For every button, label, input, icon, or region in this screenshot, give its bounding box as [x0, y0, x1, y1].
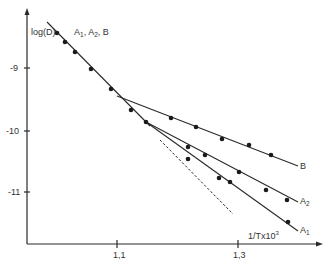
common-label-mid: , A [84, 27, 95, 37]
y-axis-arrow [25, 8, 30, 15]
x-tick-label-1-1: 1,1 [113, 251, 126, 260]
y-tick-label-9: -9 [10, 64, 18, 73]
series-label-A2-sub: 2 [306, 200, 310, 207]
chart-canvas [0, 0, 335, 266]
common-label-end: , B [98, 27, 109, 37]
y-tick-label-11: -11 [8, 188, 20, 197]
series-label-A1-sub: 1 [306, 229, 310, 236]
y-axis-label: log(D) [31, 28, 56, 37]
x-axis-label-sup: 3 [276, 230, 279, 236]
points-A2 [186, 145, 290, 203]
series-label-B: B [300, 162, 306, 171]
x-tick-label-1-3: 1,3 [233, 251, 246, 260]
line-A2 [146, 122, 298, 202]
series-label-A1: A1 [300, 226, 310, 237]
y-tick-label-10: -10 [6, 127, 19, 136]
x-axis-label-main: 1/Tx10 [248, 231, 276, 241]
series-label-A2: A2 [300, 197, 310, 208]
x-axis-label: 1/Tx103 [248, 230, 279, 241]
common-series-label: A1, A2, B [74, 28, 109, 39]
x-axis-arrow [316, 242, 323, 247]
